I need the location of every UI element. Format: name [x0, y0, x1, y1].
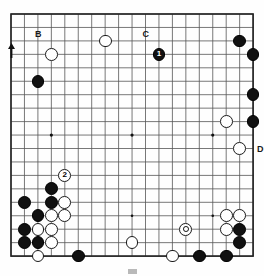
stone-white-16-15[interactable]: [220, 209, 233, 222]
stone-black-1-16[interactable]: [18, 223, 31, 236]
arrow-up-icon-a: [6, 42, 17, 63]
stone-white-16-8[interactable]: [220, 115, 233, 128]
stone-black-2-5[interactable]: [32, 75, 45, 88]
stone-white-12-18[interactable]: [166, 250, 179, 263]
stone-black-3-14[interactable]: [45, 196, 58, 209]
stone-black-1-17[interactable]: [18, 236, 31, 249]
stone-white-3-3[interactable]: [45, 48, 58, 61]
stone-white-4-14[interactable]: [58, 196, 71, 209]
stone-white-16-16[interactable]: [220, 223, 233, 236]
stone-black-1-14[interactable]: [18, 196, 31, 209]
stone-white-13-16[interactable]: [179, 223, 192, 236]
stone-white-17-10[interactable]: [233, 142, 246, 155]
stone-black-16-18[interactable]: [220, 250, 233, 263]
stone-black-17-16[interactable]: [233, 223, 246, 236]
stone-white-4-12[interactable]: 2: [58, 169, 71, 182]
stone-black-11-3[interactable]: 1: [153, 48, 166, 61]
stone-number-2: 2: [59, 170, 70, 181]
stone-white-3-15[interactable]: [45, 209, 58, 222]
stone-white-7-2[interactable]: [99, 35, 112, 48]
point-label-c: C: [143, 30, 150, 39]
stone-black-17-17[interactable]: [233, 236, 246, 249]
stone-number-1: 1: [154, 49, 165, 60]
stone-white-3-16[interactable]: [45, 223, 58, 236]
point-label-b: B: [35, 30, 42, 39]
stone-black-18-3[interactable]: [247, 48, 260, 61]
figure-caption: [0, 266, 264, 276]
go-diagram-figure: 12 BCDA: [0, 0, 264, 276]
caption-mark: [128, 269, 137, 274]
stone-black-3-13[interactable]: [45, 182, 58, 195]
point-label-d: D: [257, 145, 264, 154]
go-board[interactable]: 12 BCDA: [0, 0, 264, 266]
stone-black-14-18[interactable]: [193, 250, 206, 263]
stone-white-2-16[interactable]: [32, 223, 45, 236]
stone-white-3-17[interactable]: [45, 236, 58, 249]
stone-black-5-18[interactable]: [72, 250, 85, 263]
